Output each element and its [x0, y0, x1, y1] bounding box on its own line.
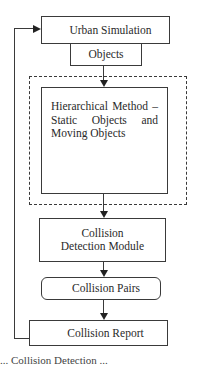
- hierarchical-method-label: Hierarchical Method – Static Objects and…: [51, 100, 158, 141]
- collision-report-node: Collision Report: [29, 320, 168, 346]
- feedback-line-vertical: [14, 28, 15, 339]
- connector-pairs-report: [103, 300, 104, 314]
- figure-caption: ... Collision Detection ...: [0, 354, 199, 366]
- arrow-right-icon: [33, 25, 41, 33]
- arrow-down-icon: [100, 211, 108, 218]
- urban-simulation-label: Urban Simulation: [69, 24, 151, 37]
- connector-method-detection: [103, 194, 104, 212]
- objects-label: Objects: [88, 48, 123, 61]
- collision-detection-node: Collision Detection Module: [39, 218, 166, 262]
- collision-detection-label: Collision Detection Module: [58, 227, 147, 253]
- collision-report-label: Collision Report: [67, 327, 143, 340]
- objects-node: Objects: [70, 43, 142, 66]
- urban-simulation-node: Urban Simulation: [41, 16, 170, 44]
- collision-pairs-label: Collision Pairs: [72, 282, 140, 295]
- arrow-down-icon: [100, 270, 108, 277]
- arrow-down-icon: [100, 313, 108, 320]
- feedback-line-bottom: [14, 338, 29, 339]
- feedback-line-top: [14, 28, 34, 29]
- hierarchical-method-node: Hierarchical Method – Static Objects and…: [41, 87, 168, 194]
- collision-pairs-node: Collision Pairs: [41, 277, 161, 300]
